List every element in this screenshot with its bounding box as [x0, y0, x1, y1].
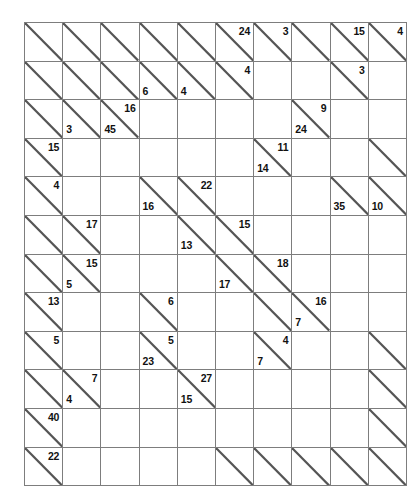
entry-cell-r9-c6[interactable]: [254, 370, 292, 409]
clue-cell-down-r3-c0: 15: [25, 138, 63, 177]
entry-cell-r11-c2[interactable]: [101, 447, 139, 486]
entry-cell-r8-c5[interactable]: [215, 331, 253, 370]
entry-cell-r6-c8[interactable]: [330, 254, 368, 293]
entry-cell-r2-c3[interactable]: [139, 100, 177, 139]
across-clue-value: 17: [219, 279, 230, 290]
entry-cell-r10-c8[interactable]: [330, 408, 368, 447]
down-clue-value: 5: [54, 335, 60, 346]
kakuro-row: 136167: [25, 293, 407, 332]
blocked-cell-r0-c7: [292, 23, 330, 62]
down-clue-value: 3: [359, 65, 365, 76]
entry-cell-r8-c2[interactable]: [101, 331, 139, 370]
entry-cell-r11-c4[interactable]: [177, 447, 215, 486]
entry-cell-r10-c6[interactable]: [254, 408, 292, 447]
entry-cell-r6-c7[interactable]: [292, 254, 330, 293]
across-clue-value: 4: [181, 86, 187, 97]
kakuro-grid: 2431546443316459241511144162235101713151…: [24, 22, 407, 486]
blocked-cell-r0-c1: [63, 23, 101, 62]
blocked-cell-r5-c0: [25, 215, 63, 254]
entry-cell-r4-c6[interactable]: [254, 177, 292, 216]
entry-cell-r7-c8[interactable]: [330, 293, 368, 332]
entry-cell-r10-c3[interactable]: [139, 408, 177, 447]
entry-cell-r7-c1[interactable]: [63, 293, 101, 332]
entry-cell-r4-c2[interactable]: [101, 177, 139, 216]
entry-cell-r6-c2[interactable]: [101, 254, 139, 293]
entry-cell-r3-c8[interactable]: [330, 138, 368, 177]
entry-cell-r7-c2[interactable]: [101, 293, 139, 332]
entry-cell-r9-c8[interactable]: [330, 370, 368, 409]
clue-cell-both-r9-c1: 74: [63, 370, 101, 409]
entry-cell-r9-c5[interactable]: [215, 370, 253, 409]
entry-cell-r3-c1[interactable]: [63, 138, 101, 177]
blocked-cell-r6-c0: [25, 254, 63, 293]
entry-cell-r10-c2[interactable]: [101, 408, 139, 447]
entry-cell-r4-c1[interactable]: [63, 177, 101, 216]
entry-cell-r4-c7[interactable]: [292, 177, 330, 216]
entry-cell-r11-c3[interactable]: [139, 447, 177, 486]
entry-cell-r7-c5[interactable]: [215, 293, 253, 332]
clue-cell-down-r0-c8: 15: [330, 23, 368, 62]
entry-cell-r10-c1[interactable]: [63, 408, 101, 447]
blocked-cell-r11-c9: [368, 447, 406, 486]
entry-cell-r10-c5[interactable]: [215, 408, 253, 447]
entry-cell-r2-c5[interactable]: [215, 100, 253, 139]
entry-cell-r8-c4[interactable]: [177, 331, 215, 370]
entry-cell-r7-c9[interactable]: [368, 293, 406, 332]
entry-cell-r5-c8[interactable]: [330, 215, 368, 254]
diagonal-divider-icon: [216, 448, 253, 486]
entry-cell-r8-c1[interactable]: [63, 331, 101, 370]
diagonal-divider-icon: [25, 23, 62, 61]
entry-cell-r2-c9[interactable]: [368, 100, 406, 139]
diagonal-divider-icon: [101, 23, 138, 61]
entry-cell-r5-c7[interactable]: [292, 215, 330, 254]
entry-cell-r6-c4[interactable]: [177, 254, 215, 293]
clue-cell-across-r5-c4: 13: [177, 215, 215, 254]
down-clue-value: 7: [92, 373, 98, 384]
clue-cell-down-r1-c8: 3: [330, 61, 368, 100]
entry-cell-r7-c4[interactable]: [177, 293, 215, 332]
across-clue-value: 7: [295, 317, 301, 328]
clue-cell-down-r4-c0: 4: [25, 177, 63, 216]
entry-cell-r4-c5[interactable]: [215, 177, 253, 216]
entry-cell-r8-c7[interactable]: [292, 331, 330, 370]
blocked-cell-r1-c2: [101, 61, 139, 100]
entry-cell-r2-c8[interactable]: [330, 100, 368, 139]
clue-cell-both-r3-c6: 1114: [254, 138, 292, 177]
entry-cell-r5-c3[interactable]: [139, 215, 177, 254]
down-clue-value: 27: [201, 373, 212, 384]
entry-cell-r9-c3[interactable]: [139, 370, 177, 409]
diagonal-divider-icon: [25, 370, 62, 408]
entry-cell-r3-c7[interactable]: [292, 138, 330, 177]
kakuro-row: 22: [25, 447, 407, 486]
entry-cell-r2-c6[interactable]: [254, 100, 292, 139]
clue-cell-down-r0-c9: 4: [368, 23, 406, 62]
entry-cell-r10-c4[interactable]: [177, 408, 215, 447]
entry-cell-r2-c4[interactable]: [177, 100, 215, 139]
entry-cell-r6-c9[interactable]: [368, 254, 406, 293]
entry-cell-r3-c3[interactable]: [139, 138, 177, 177]
entry-cell-r5-c9[interactable]: [368, 215, 406, 254]
entry-cell-r10-c7[interactable]: [292, 408, 330, 447]
entry-cell-r8-c8[interactable]: [330, 331, 368, 370]
blocked-cell-r1-c0: [25, 61, 63, 100]
entry-cell-r11-c1[interactable]: [63, 447, 101, 486]
entry-cell-r1-c9[interactable]: [368, 61, 406, 100]
diagonal-divider-icon: [25, 62, 62, 100]
clue-cell-down-r7-c3: 6: [139, 293, 177, 332]
entry-cell-r9-c2[interactable]: [101, 370, 139, 409]
clue-cell-down-r5-c5: 15: [215, 215, 253, 254]
entry-cell-r5-c6[interactable]: [254, 215, 292, 254]
entry-cell-r1-c6[interactable]: [254, 61, 292, 100]
entry-cell-r1-c7[interactable]: [292, 61, 330, 100]
entry-cell-r3-c2[interactable]: [101, 138, 139, 177]
down-clue-value: 6: [168, 296, 174, 307]
entry-cell-r6-c3[interactable]: [139, 254, 177, 293]
across-clue-value: 13: [181, 240, 192, 251]
entry-cell-r3-c4[interactable]: [177, 138, 215, 177]
entry-cell-r3-c5[interactable]: [215, 138, 253, 177]
entry-cell-r5-c2[interactable]: [101, 215, 139, 254]
kakuro-row: 1551718: [25, 254, 407, 293]
entry-cell-r9-c7[interactable]: [292, 370, 330, 409]
clue-cell-across-r4-c3: 16: [139, 177, 177, 216]
down-clue-value: 4: [397, 26, 403, 37]
